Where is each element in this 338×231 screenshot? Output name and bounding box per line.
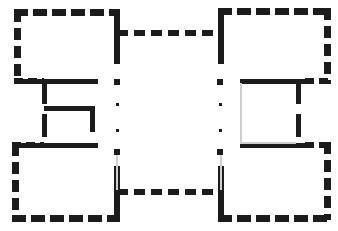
pier-marker-sw <box>114 149 120 155</box>
pier-dot-se <box>219 129 222 132</box>
pier-dot-sw <box>116 129 119 132</box>
pier-marker-nw <box>114 79 120 85</box>
floor-plan-drawing <box>0 0 338 231</box>
pier-dot-nw <box>116 103 119 106</box>
pier-dot-ne <box>219 103 222 106</box>
floor-plan-canvas <box>0 0 338 231</box>
pier-marker-se <box>217 149 223 155</box>
pier-marker-ne <box>217 79 223 85</box>
